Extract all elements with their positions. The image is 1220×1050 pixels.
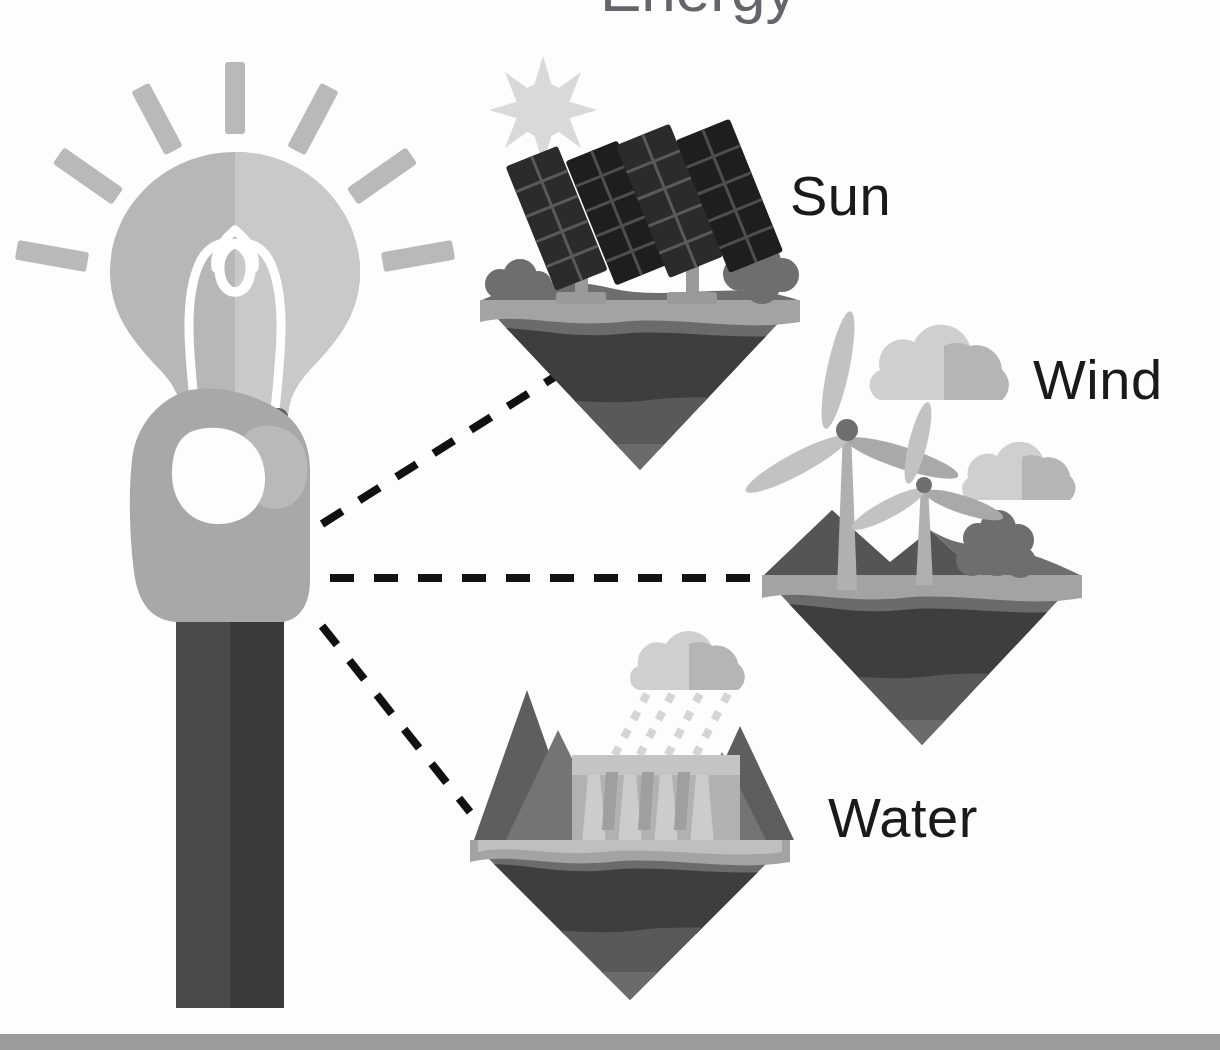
cloud-large — [870, 325, 1009, 400]
soil-layer-low-water — [460, 972, 800, 1012]
rain-cloud — [630, 631, 745, 690]
soil-layer-mid-water — [460, 927, 800, 978]
bulb-glass-right — [235, 152, 360, 420]
infographic-canvas: Energy — [0, 0, 1220, 1050]
node-sun[interactable] — [470, 56, 810, 484]
island-water — [460, 690, 800, 1012]
rain-drops — [612, 694, 728, 760]
soil-layer-dark — [470, 328, 810, 404]
connector-to-water — [322, 626, 470, 812]
turbine-tower-2 — [916, 485, 933, 585]
soil-layer-mid — [470, 397, 810, 450]
soil-layer-low-wind — [752, 720, 1092, 760]
island-sun — [470, 282, 810, 484]
soil-layer-dark-wind — [752, 604, 1092, 680]
label-sun: Sun — [790, 168, 891, 224]
sleeve-right — [230, 598, 284, 1008]
soil-layer-dark-water — [460, 864, 800, 934]
energy-sources-illustration — [0, 0, 1220, 1050]
turbine-tower-1 — [837, 430, 857, 590]
node-water[interactable] — [460, 631, 800, 1012]
label-water: Water — [828, 790, 978, 846]
wrist — [176, 596, 284, 610]
label-wind: Wind — [1033, 352, 1163, 408]
cloud-small — [962, 442, 1075, 500]
bottom-bar — [0, 1034, 1220, 1050]
dam-crest — [572, 755, 740, 775]
sun-icon — [489, 56, 597, 164]
soil-layer-mid-wind — [752, 673, 1092, 726]
connector-to-sun — [322, 376, 556, 524]
hand-holding-bulb — [130, 388, 310, 1008]
